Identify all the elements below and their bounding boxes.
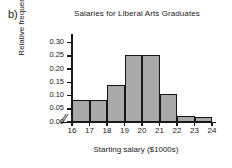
figure-histogram: b) Salaries for Liberal Arts Graduates 0…	[0, 0, 232, 168]
plot-area	[72, 36, 212, 122]
y-tick	[67, 42, 71, 44]
y-tick-label: 0.15	[38, 78, 64, 86]
x-tick-label: 20	[134, 126, 150, 136]
x-tick-label: 18	[99, 126, 115, 136]
x-tick-label: 24	[204, 126, 220, 136]
y-tick	[67, 82, 71, 84]
histogram-bar	[195, 117, 213, 122]
y-tick	[67, 108, 71, 110]
x-tick-label: 19	[117, 126, 133, 136]
histogram-bar	[160, 94, 178, 122]
y-tick-label: 0.25	[38, 51, 64, 59]
y-tick-label: 0.30	[38, 38, 64, 46]
y-tick	[67, 55, 71, 57]
y-tick-label: 0.05	[38, 104, 64, 112]
histogram-bar	[107, 85, 125, 122]
histogram-bar	[90, 100, 108, 122]
y-tick-label: 0.20	[38, 65, 64, 73]
y-tick	[67, 95, 71, 97]
y-tick	[67, 68, 71, 70]
histogram-bar	[177, 116, 195, 122]
histogram-bar	[72, 100, 90, 122]
histogram-bar	[142, 55, 160, 122]
x-tick-label: 22	[169, 126, 185, 136]
x-tick-label: 21	[152, 126, 168, 136]
histogram-bar	[125, 55, 143, 122]
y-axis-title: Relative frequency	[17, 0, 26, 72]
x-tick-label: 16	[64, 126, 80, 136]
x-axis-title: Starting salary ($1000s)	[46, 145, 226, 154]
x-tick-label: 23	[187, 126, 203, 136]
y-tick-label: 0.10	[38, 91, 64, 99]
x-tick-label: 17	[82, 126, 98, 136]
